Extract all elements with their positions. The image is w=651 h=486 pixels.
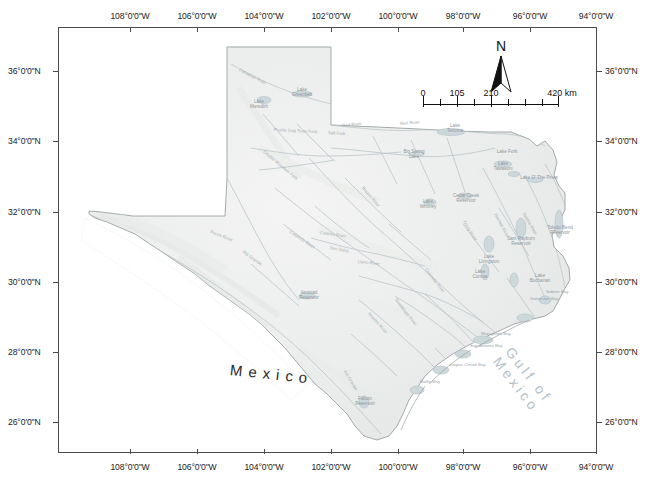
lat-tick-left-34: [53, 141, 58, 142]
scale-bar-tick-major-2: [491, 96, 492, 107]
lon-label-bottom-100: 100°0'0"W: [378, 462, 417, 472]
map-page: Mexico Gulf of Mexico Lake Meredith Lake…: [0, 0, 651, 486]
lon-label-bottom-98: 98°0'0"W: [446, 462, 481, 472]
lat-label-left-30: 30°0'0"N: [8, 277, 41, 287]
scale-bar-tick-major-0: [423, 96, 424, 107]
lat-label-left-26: 26°0'0"N: [8, 417, 41, 427]
lat-label-left-36: 36°0'0"N: [8, 66, 41, 76]
lon-tick-top-104: [264, 27, 265, 32]
lon-tick-top-106: [197, 27, 198, 32]
lon-label-top-98: 98°0'0"W: [446, 11, 481, 21]
lon-tick-bottom-106: [197, 449, 198, 454]
lat-tick-right-34: [597, 141, 602, 142]
lat-label-left-34: 34°0'0"N: [8, 136, 41, 146]
scale-tick-420: 420 km: [547, 88, 577, 98]
lon-tick-top-94: [596, 27, 597, 32]
lon-label-bottom-104: 104°0'0"W: [244, 462, 283, 472]
lon-tick-top-98: [463, 27, 464, 32]
lon-label-top-102: 102°0'0"W: [311, 11, 350, 21]
lon-tick-bottom-100: [398, 449, 399, 454]
lon-label-top-108: 108°0'0"W: [110, 11, 149, 21]
lat-tick-right-30: [597, 282, 602, 283]
scale-bar-tick-major-1: [457, 96, 458, 107]
lon-tick-top-108: [130, 27, 131, 32]
lat-tick-left-26: [53, 422, 58, 423]
lat-tick-right-36: [597, 71, 602, 72]
lon-label-top-100: 100°0'0"W: [378, 11, 417, 21]
lon-tick-bottom-98: [463, 449, 464, 454]
lat-label-right-28: 28°0'0"N: [605, 347, 638, 357]
scale-bar-tick-3: [508, 99, 509, 106]
lat-tick-right-28: [597, 352, 602, 353]
lon-tick-top-102: [331, 27, 332, 32]
lon-label-top-104: 104°0'0"W: [244, 11, 283, 21]
north-arrow-label: N: [484, 38, 518, 54]
lat-label-right-30: 30°0'0"N: [605, 277, 638, 287]
scale-bar-tick-5: [542, 99, 543, 106]
lat-label-left-32: 32°0'0"N: [8, 207, 41, 217]
north-arrow: N: [484, 38, 518, 94]
lon-label-top-96: 96°0'0"W: [513, 11, 548, 21]
scale-bar-tick-1: [440, 99, 441, 106]
lon-label-bottom-96: 96°0'0"W: [513, 462, 548, 472]
lon-tick-top-100: [398, 27, 399, 32]
lon-label-bottom-94: 94°0'0"W: [579, 462, 614, 472]
scale-bar-tick-major-3: [558, 96, 559, 107]
lat-tick-left-32: [53, 212, 58, 213]
lon-label-bottom-106: 106°0'0"W: [177, 462, 216, 472]
lat-tick-right-32: [597, 212, 602, 213]
scale-bar: 0 105 210 420 km: [414, 88, 580, 114]
lat-label-right-34: 34°0'0"N: [605, 136, 638, 146]
lat-label-right-26: 26°0'0"N: [605, 417, 638, 427]
lat-tick-left-28: [53, 352, 58, 353]
lon-label-bottom-108: 108°0'0"W: [110, 462, 149, 472]
lon-tick-bottom-104: [264, 449, 265, 454]
scale-bar-labels: 0 105 210 420 km: [414, 88, 580, 100]
lon-label-top-94: 94°0'0"W: [579, 11, 614, 21]
lat-tick-right-26: [597, 422, 602, 423]
lon-tick-bottom-94: [596, 449, 597, 454]
lat-label-right-36: 36°0'0"N: [605, 66, 638, 76]
lon-label-bottom-102: 102°0'0"W: [311, 462, 350, 472]
lon-tick-bottom-108: [130, 449, 131, 454]
lat-label-left-28: 28°0'0"N: [8, 347, 41, 357]
lon-tick-top-96: [530, 27, 531, 32]
scale-bar-tick-2: [474, 99, 475, 106]
lat-tick-left-36: [53, 71, 58, 72]
lat-label-right-32: 32°0'0"N: [605, 207, 638, 217]
lon-label-top-106: 106°0'0"W: [177, 11, 216, 21]
scale-bar-tick-4: [525, 99, 526, 106]
lon-tick-bottom-96: [530, 449, 531, 454]
lon-tick-bottom-102: [331, 449, 332, 454]
lat-tick-left-30: [53, 282, 58, 283]
